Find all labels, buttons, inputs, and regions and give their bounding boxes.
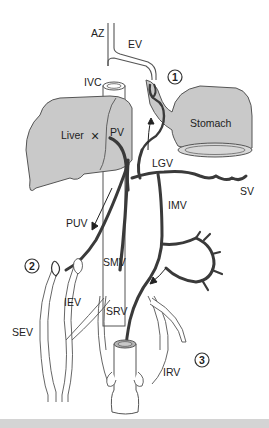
label-liver: Liver bbox=[61, 129, 84, 141]
svg-text:2: 2 bbox=[29, 260, 35, 272]
label-sev: SEV bbox=[12, 326, 33, 338]
label-smv: SMV bbox=[103, 256, 126, 268]
label-irv: IRV bbox=[163, 366, 180, 378]
marker-3: 3 bbox=[195, 353, 209, 367]
obstruction-mark: × bbox=[91, 128, 99, 144]
marker-1: 1 bbox=[168, 70, 182, 84]
epigastric-veins bbox=[40, 259, 110, 403]
svg-text:1: 1 bbox=[172, 71, 178, 83]
portal-hypertension-diagram: AZ EV IVC Liver × PV Stomach LGV SV IMV … bbox=[0, 0, 269, 428]
portal-veins bbox=[66, 138, 246, 378]
label-sv: SV bbox=[240, 185, 254, 197]
svg-text:3: 3 bbox=[199, 354, 205, 366]
label-pv: PV bbox=[110, 126, 124, 138]
marker-2: 2 bbox=[25, 259, 39, 273]
label-ev: EV bbox=[128, 38, 142, 50]
label-imv: IMV bbox=[168, 199, 187, 211]
bottom-strip bbox=[0, 419, 269, 428]
label-puv: PUV bbox=[66, 217, 88, 229]
label-ivc: IVC bbox=[84, 76, 102, 88]
label-srv: SRV bbox=[106, 305, 127, 317]
label-iev: IEV bbox=[64, 296, 81, 308]
labels: AZ EV IVC Liver × PV Stomach LGV SV IMV … bbox=[12, 27, 254, 378]
label-lgv: LGV bbox=[152, 157, 173, 169]
label-stomach: Stomach bbox=[190, 117, 232, 129]
label-az: AZ bbox=[91, 27, 105, 39]
azygos-vein bbox=[108, 23, 156, 80]
